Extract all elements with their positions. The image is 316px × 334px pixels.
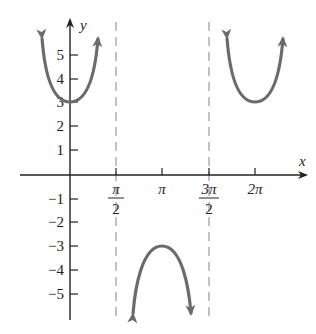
x-tick-labels: π 2 π 3π 2 2π <box>108 181 263 217</box>
svg-text:2π: 2π <box>247 181 263 197</box>
svg-text:−3: −3 <box>48 238 64 254</box>
svg-text:4: 4 <box>57 71 65 87</box>
svg-text:π: π <box>112 181 120 197</box>
x-ticks <box>116 168 255 175</box>
svg-text:2: 2 <box>57 118 65 134</box>
y-axis-label: y <box>78 17 87 33</box>
secant-graph: y x 5 4 3 2 1 −1 −2 −3 −4 −5 π 2 π 3 <box>0 0 316 334</box>
svg-text:−1: −1 <box>48 191 64 207</box>
svg-text:2: 2 <box>112 201 120 217</box>
svg-text:2: 2 <box>205 201 213 217</box>
svg-text:π: π <box>158 181 166 197</box>
svg-text:1: 1 <box>57 142 65 158</box>
svg-text:−5: −5 <box>48 286 64 302</box>
svg-text:5: 5 <box>57 47 65 63</box>
svg-text:−4: −4 <box>48 262 64 278</box>
svg-text:−2: −2 <box>48 214 64 230</box>
curve-branch-2 <box>133 246 191 314</box>
x-axis-label: x <box>298 153 306 169</box>
curve-branch-3 <box>227 38 283 102</box>
svg-text:3π: 3π <box>200 181 217 197</box>
